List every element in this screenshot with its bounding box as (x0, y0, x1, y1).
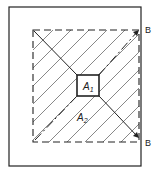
label-a2: A2 (76, 112, 88, 124)
diagonal-line-solid (34, 31, 77, 75)
section-line-b (35, 96, 77, 140)
area-diagram: A1 A2 B B (0, 0, 158, 172)
label-b-bottom: B (145, 138, 151, 148)
label-b-top: B (145, 25, 151, 35)
